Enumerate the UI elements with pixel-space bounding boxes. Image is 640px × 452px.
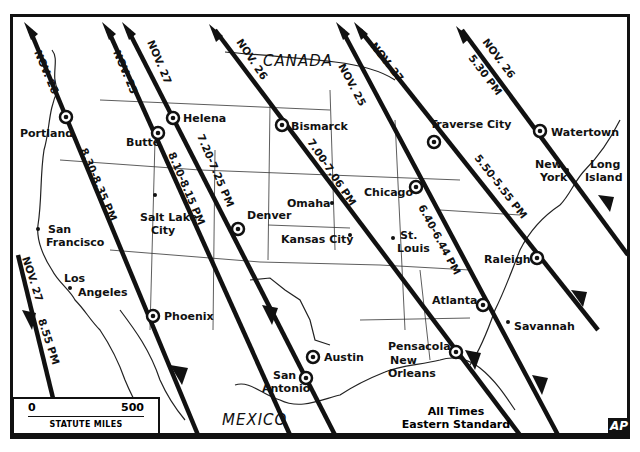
time-zone-note-line1: All Times — [396, 405, 516, 418]
scale-bar — [28, 416, 144, 417]
time-zone-note-line2: Eastern Standard — [396, 418, 516, 431]
time-zone-note: All Times Eastern Standard — [396, 405, 516, 431]
scale-zero: 0 — [28, 401, 36, 414]
scale-legend: 0 500 STATUTE MILES — [12, 397, 160, 435]
eclipse-path-map: CANADA MEXICO Portland Butte Helena Bism… — [0, 0, 640, 452]
scale-max: 500 — [121, 401, 144, 414]
ap-credit-logo: AP — [608, 418, 630, 434]
map-frame — [10, 14, 630, 439]
scale-unit-label: STATUTE MILES — [14, 420, 158, 429]
